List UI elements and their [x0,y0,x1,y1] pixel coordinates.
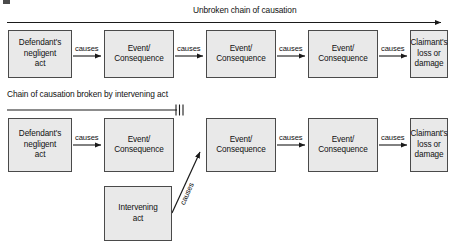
causation-diagram: Unbroken chain of causation Chain of cau… [0,0,449,244]
node-line: Event/ [332,135,355,144]
unbroken-chain-title: Unbroken chain of causation [193,6,296,15]
node-line: Consequence [114,54,163,63]
node-line: loss or [417,49,440,58]
node-event-consequence-4[interactable]: Event/ Consequence [104,118,174,172]
cropped-caption-mark [3,0,10,4]
node-line: act [35,59,46,68]
node-line: Defendant's [19,129,61,138]
node-event-consequence-5[interactable]: Event/ Consequence [206,118,276,172]
node-line: negligent [24,140,56,149]
node-line: damage [415,59,444,68]
node-line: Event/ [128,135,151,144]
edge-label-causes-r2-1: causes [75,134,98,142]
node-event-consequence-2[interactable]: Event/ Consequence [206,30,276,78]
node-line: Claimant's [411,38,448,47]
edge-label-causes-r1-3: causes [279,45,302,53]
node-line: Consequence [216,54,265,63]
broken-chain-rule [7,105,183,116]
node-line: Claimant's [411,129,448,138]
edge-label-causes-r1-4: causes [381,45,404,53]
edge-label-causes-r1-2: causes [177,45,200,53]
node-line: damage [415,150,444,159]
node-intervening-act[interactable]: Intervening act [104,186,172,241]
node-claimant-loss-or-damage-broken[interactable]: Claimant's loss or damage [410,118,448,172]
node-line: Consequence [114,145,163,154]
edge-label-causes-r1-1: causes [75,45,98,53]
node-line: Event/ [128,44,151,53]
node-event-consequence-1[interactable]: Event/ Consequence [104,30,174,78]
broken-chain-title: Chain of causation broken by intervening… [7,90,168,99]
node-line: loss or [417,140,440,149]
node-line: Event/ [230,44,253,53]
node-line: act [133,214,144,223]
edge-label-causes-intervening: causes [179,182,196,207]
node-event-consequence-3[interactable]: Event/ Consequence [308,30,378,78]
node-event-consequence-6[interactable]: Event/ Consequence [308,118,378,172]
edge-label-causes-r2-2: causes [279,134,302,142]
node-line: negligent [24,49,56,58]
node-claimant-loss-or-damage[interactable]: Claimant's loss or damage [410,30,448,78]
node-line: Consequence [318,145,367,154]
node-line: Consequence [318,54,367,63]
node-defendant-negligent-act-broken[interactable]: Defendant's negligent act [8,118,72,172]
node-line: Event/ [230,135,253,144]
node-line: act [35,150,46,159]
node-line: Event/ [332,44,355,53]
edge-label-causes-r2-3: causes [381,134,404,142]
node-line: Defendant's [19,38,61,47]
node-line: Intervening [118,203,157,212]
node-line: Consequence [216,145,265,154]
node-defendant-negligent-act[interactable]: Defendant's negligent act [8,30,72,78]
